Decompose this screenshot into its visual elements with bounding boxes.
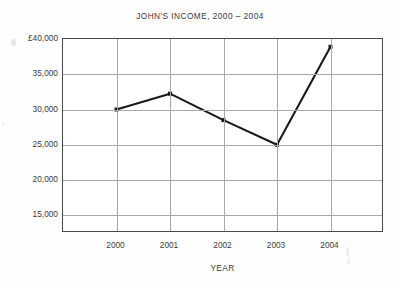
x-axis-tick-labels: 20002001200220032004 bbox=[0, 240, 400, 254]
y-axis-tick-label: 20,000 bbox=[0, 174, 62, 184]
gridline-vertical bbox=[117, 39, 118, 231]
gridline-vertical bbox=[170, 39, 171, 231]
y-axis-tick-labels: £40,00035,00030,00025,00020,00015,000 bbox=[0, 38, 62, 232]
gridline-horizontal bbox=[63, 74, 382, 75]
y-axis-tick-label: 30,000 bbox=[0, 104, 62, 114]
x-axis-tick-label: 2000 bbox=[86, 240, 146, 250]
gridline-vertical bbox=[277, 39, 278, 231]
gridline-horizontal bbox=[63, 145, 382, 146]
chart-screenshot: JOHN'S INCOME, 2000 – 2004 £40,00035,000… bbox=[0, 0, 400, 288]
plot-area bbox=[62, 38, 383, 232]
y-axis-tick-label: 15,000 bbox=[0, 209, 62, 219]
gridline-horizontal bbox=[63, 180, 382, 181]
gridline-vertical bbox=[224, 39, 225, 231]
x-axis-tick-label: 2002 bbox=[193, 240, 253, 250]
x-axis-tick-label: 2003 bbox=[246, 240, 306, 250]
y-axis-tick-label: 35,000 bbox=[0, 68, 62, 78]
gridline-horizontal bbox=[63, 215, 382, 216]
gridline-vertical bbox=[331, 39, 332, 231]
x-axis-title: YEAR bbox=[62, 263, 383, 273]
chart-title: JOHN'S INCOME, 2000 – 2004 bbox=[0, 11, 400, 21]
y-axis-tick-label: £40,000 bbox=[0, 33, 62, 43]
x-axis-tick-label: 2001 bbox=[139, 240, 199, 250]
y-axis-tick-label: 25,000 bbox=[0, 139, 62, 149]
x-axis-tick-label: 2004 bbox=[300, 240, 360, 250]
gridline-horizontal bbox=[63, 110, 382, 111]
